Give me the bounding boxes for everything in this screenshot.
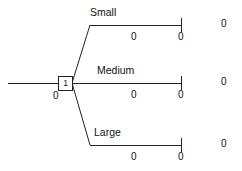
branch-value-large: 0 [131,151,137,162]
branch-value-small: 0 [131,31,137,42]
branch-line-small [72,25,90,83]
branch-label-large: Large [94,127,121,138]
branch-label-small: Small [90,7,116,18]
decision-node-label: 1 [63,79,68,88]
branch-label-medium: Medium [97,65,134,76]
decision-node-1[interactable]: 1 [58,76,73,91]
terminal-value-medium: 0 [178,89,184,100]
payoff-large: 0 [221,138,227,149]
payoff-medium: 0 [221,76,227,87]
terminal-value-small: 0 [178,31,184,42]
decision-tree-lines [0,0,242,171]
payoff-small: 0 [221,18,227,29]
root-value-label: 0 [53,90,59,101]
branch-line-large [72,83,90,145]
decision-tree-diagram: 1 0 Small 0 0 0 Medium 0 0 0 Large 0 0 0 [0,0,242,171]
terminal-value-large: 0 [178,151,184,162]
branch-value-medium: 0 [131,89,137,100]
